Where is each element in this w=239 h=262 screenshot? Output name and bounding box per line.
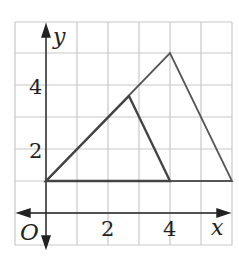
x-axis-label: x [211, 215, 224, 240]
y-tick-4: 4 [29, 75, 42, 99]
coordinate-plane: y x O 2 4 2 4 [0, 0, 239, 262]
x-axis-left-arrow-icon [18, 209, 30, 217]
axes [18, 25, 229, 248]
labels: y x O 2 4 2 4 [20, 24, 224, 245]
grid [15, 22, 232, 245]
origin-label: O [20, 219, 39, 245]
x-tick-2: 2 [101, 217, 114, 241]
y-axis-down-arrow-icon [42, 236, 50, 248]
y-tick-2: 2 [29, 139, 42, 163]
y-axis-label: y [52, 24, 66, 49]
x-tick-4: 4 [163, 217, 176, 241]
y-axis-up-arrow-icon [42, 25, 50, 37]
